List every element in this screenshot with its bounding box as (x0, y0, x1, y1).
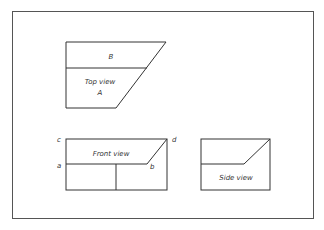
projection-diagram: B Top view A Front view a b c d Side vie… (0, 0, 324, 230)
side-view-label: Side view (219, 174, 253, 182)
side-view: Side view (201, 139, 270, 190)
front-view-label: Front view (93, 150, 130, 158)
region-label-a: A (97, 89, 103, 97)
top-view-label: Top view (85, 78, 116, 86)
top-view: B Top view A (66, 42, 166, 108)
point-label-c: c (57, 136, 61, 144)
point-label-b: b (150, 163, 155, 171)
point-label-d: d (172, 136, 177, 144)
front-view-diagonal (147, 139, 167, 164)
region-label-b: B (109, 53, 114, 61)
side-view-diagonal (244, 139, 270, 164)
top-view-outline (66, 42, 166, 108)
front-view: Front view a b c d (57, 136, 177, 190)
point-label-a: a (57, 162, 61, 170)
